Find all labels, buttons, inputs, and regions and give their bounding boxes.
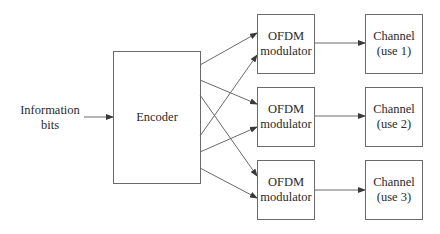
channel-1-line1: Channel	[373, 29, 415, 44]
encoder-label: Encoder	[136, 110, 178, 125]
input-label: Information bits	[14, 103, 86, 133]
modulator-2-line2: modulator	[260, 117, 311, 132]
edge-encoder-mod1-a	[200, 33, 257, 65]
modulator-1-line1: OFDM	[260, 29, 311, 44]
channel-2-line1: Channel	[373, 102, 415, 117]
encoder-block: Encoder	[113, 51, 201, 184]
ofdm-modulator-1: OFDM modulator	[257, 14, 315, 74]
input-label-line1: Information	[14, 103, 86, 118]
channel-3: Channel (use 3)	[365, 160, 423, 220]
ofdm-modulator-2: OFDM modulator	[257, 87, 315, 147]
channel-2: Channel (use 2)	[365, 87, 423, 147]
modulator-1-line2: modulator	[260, 44, 311, 59]
channel-1: Channel (use 1)	[365, 14, 423, 74]
modulator-3-line2: modulator	[260, 190, 311, 205]
edge-encoder-mod2-b	[200, 127, 257, 152]
edge-encoder-mod3-a	[200, 95, 257, 176]
edge-encoder-mod1-b	[200, 55, 257, 136]
input-label-line2: bits	[14, 118, 86, 133]
channel-1-line2: (use 1)	[373, 44, 415, 59]
edge-encoder-mod2-a	[200, 80, 257, 104]
modulator-3-line1: OFDM	[260, 175, 311, 190]
edge-encoder-mod3-b	[200, 168, 257, 198]
channel-3-line1: Channel	[373, 175, 415, 190]
ofdm-modulator-3: OFDM modulator	[257, 160, 315, 220]
modulator-2-line1: OFDM	[260, 102, 311, 117]
channel-2-line2: (use 2)	[373, 117, 415, 132]
channel-3-line2: (use 3)	[373, 190, 415, 205]
